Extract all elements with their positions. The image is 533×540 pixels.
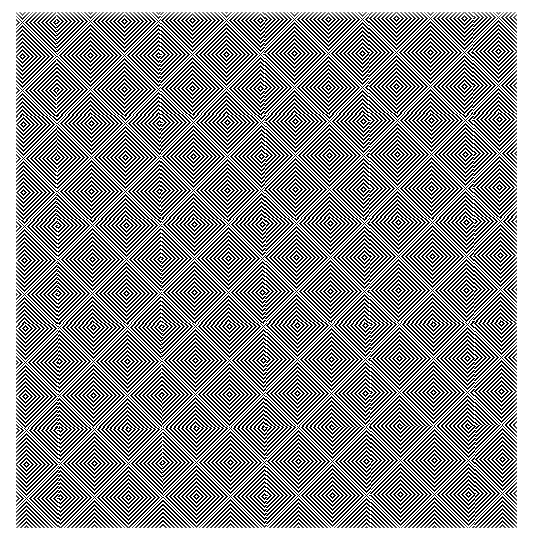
pattern-panel: A square op-art plate densely filled wit… xyxy=(16,12,517,528)
chevron-moire-svg: A square op-art plate densely filled wit… xyxy=(16,12,517,528)
pattern-field: A square op-art plate densely filled wit… xyxy=(16,12,517,528)
artwork-canvas: A square op-art plate densely filled wit… xyxy=(0,0,533,540)
